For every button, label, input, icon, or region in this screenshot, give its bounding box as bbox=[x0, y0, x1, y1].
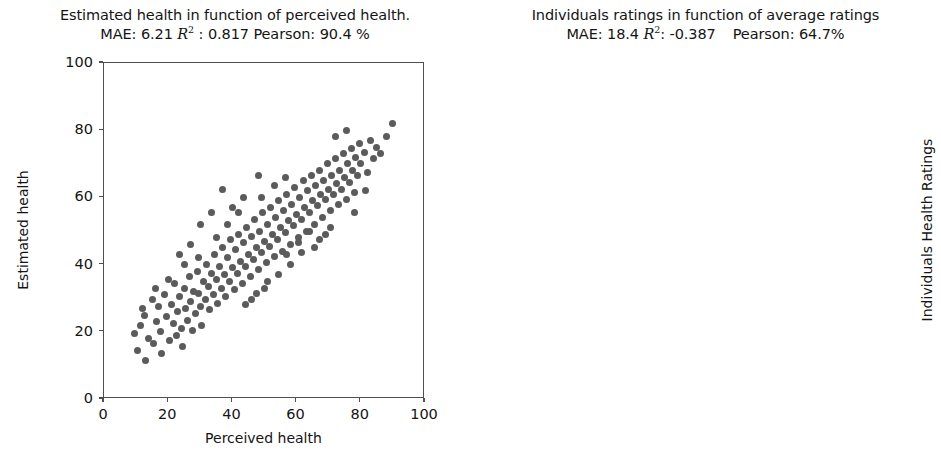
data-point bbox=[205, 283, 212, 290]
data-point bbox=[224, 254, 231, 261]
data-point bbox=[216, 263, 223, 270]
x-axis-tick-label: 20 bbox=[158, 406, 176, 422]
r2-value-left: 0.817 bbox=[208, 26, 249, 42]
data-point bbox=[168, 301, 175, 308]
r2-separator-right: : bbox=[660, 26, 665, 42]
data-point bbox=[248, 296, 255, 303]
x-axis-tick-label: 80 bbox=[351, 406, 369, 422]
data-point bbox=[295, 239, 302, 246]
data-point bbox=[195, 290, 202, 297]
data-point bbox=[264, 278, 271, 285]
data-point bbox=[271, 253, 278, 260]
x-axis-tick-label: 60 bbox=[286, 406, 304, 422]
data-point bbox=[338, 186, 345, 193]
data-point bbox=[149, 296, 156, 303]
data-point bbox=[288, 201, 295, 208]
x-axis-tick bbox=[167, 398, 168, 402]
pearson-label-right: Pearson: bbox=[733, 26, 795, 42]
data-point bbox=[174, 308, 181, 315]
data-point bbox=[332, 155, 339, 162]
data-point bbox=[227, 236, 234, 243]
data-point bbox=[142, 357, 149, 364]
pearson-value-right: 64.7% bbox=[799, 26, 845, 42]
data-point bbox=[275, 197, 282, 204]
y-axis-tick bbox=[99, 129, 103, 130]
data-point bbox=[214, 300, 221, 307]
data-point bbox=[137, 322, 144, 329]
data-point bbox=[255, 172, 262, 179]
data-point bbox=[320, 177, 327, 184]
data-point bbox=[306, 228, 313, 235]
data-point bbox=[170, 320, 177, 327]
data-point bbox=[283, 191, 290, 198]
mae-label-right: MAE: bbox=[566, 26, 602, 42]
data-point bbox=[343, 127, 350, 134]
chart-panel-left: Estimated health in function of perceive… bbox=[0, 0, 470, 458]
data-point bbox=[232, 246, 239, 253]
data-point bbox=[258, 194, 265, 201]
data-point bbox=[240, 239, 247, 246]
data-point bbox=[340, 150, 347, 157]
data-point bbox=[235, 209, 242, 216]
data-point bbox=[300, 177, 307, 184]
data-point bbox=[308, 172, 315, 179]
y-axis-tick bbox=[99, 196, 103, 197]
x-axis-tick bbox=[231, 398, 232, 402]
data-point bbox=[202, 296, 209, 303]
data-point bbox=[256, 228, 263, 235]
data-point bbox=[218, 285, 225, 292]
data-point bbox=[179, 343, 186, 350]
data-point bbox=[314, 202, 321, 209]
data-point bbox=[211, 251, 218, 258]
data-point bbox=[213, 276, 220, 283]
data-point bbox=[335, 201, 342, 208]
data-point bbox=[165, 276, 172, 283]
data-point bbox=[283, 251, 290, 258]
r2-symbol-left: R bbox=[177, 26, 188, 42]
data-point bbox=[195, 254, 202, 261]
data-point bbox=[330, 191, 337, 198]
data-point bbox=[210, 291, 217, 298]
figure-canvas: Estimated health in function of perceive… bbox=[0, 0, 941, 458]
data-point bbox=[290, 222, 297, 229]
data-point bbox=[242, 301, 249, 308]
chart-title-right: Individuals ratings in function of avera… bbox=[470, 6, 941, 24]
y-axis-tick bbox=[99, 263, 103, 264]
data-point bbox=[155, 303, 162, 310]
x-axis-tick-label: 0 bbox=[98, 406, 107, 422]
data-point bbox=[328, 172, 335, 179]
chart-title-block-left: Estimated health in function of perceive… bbox=[0, 6, 470, 43]
data-point bbox=[203, 261, 210, 268]
data-point bbox=[362, 187, 369, 194]
y-axis-tick-label: 40 bbox=[39, 256, 93, 272]
data-point bbox=[219, 186, 226, 193]
data-point bbox=[298, 216, 305, 223]
data-point bbox=[153, 318, 160, 325]
data-point bbox=[322, 196, 329, 203]
r2-separator-left: : bbox=[199, 26, 204, 42]
data-point bbox=[259, 209, 266, 216]
data-point bbox=[176, 293, 183, 300]
pearson-value-left: 90.4 % bbox=[320, 26, 370, 42]
r2-exponent-left: 2 bbox=[188, 24, 194, 35]
data-point bbox=[354, 172, 361, 179]
data-point bbox=[291, 184, 298, 191]
data-point bbox=[346, 179, 353, 186]
data-point bbox=[187, 298, 194, 305]
data-point bbox=[324, 160, 331, 167]
data-point bbox=[361, 149, 368, 156]
data-point bbox=[181, 285, 188, 292]
data-point bbox=[192, 310, 199, 317]
data-point bbox=[319, 214, 326, 221]
x-axis-tick bbox=[102, 398, 103, 402]
data-point bbox=[173, 332, 180, 339]
data-point bbox=[187, 241, 194, 248]
data-point bbox=[274, 236, 281, 243]
data-point bbox=[166, 337, 173, 344]
y-axis-label-right: Individuals Health Ratings bbox=[919, 139, 935, 322]
data-point bbox=[250, 256, 257, 263]
data-point bbox=[263, 259, 270, 266]
y-axis-tick-label: 0 bbox=[39, 390, 93, 406]
data-point bbox=[224, 221, 231, 228]
chart-panel-right: Individuals ratings in function of avera… bbox=[470, 0, 941, 458]
